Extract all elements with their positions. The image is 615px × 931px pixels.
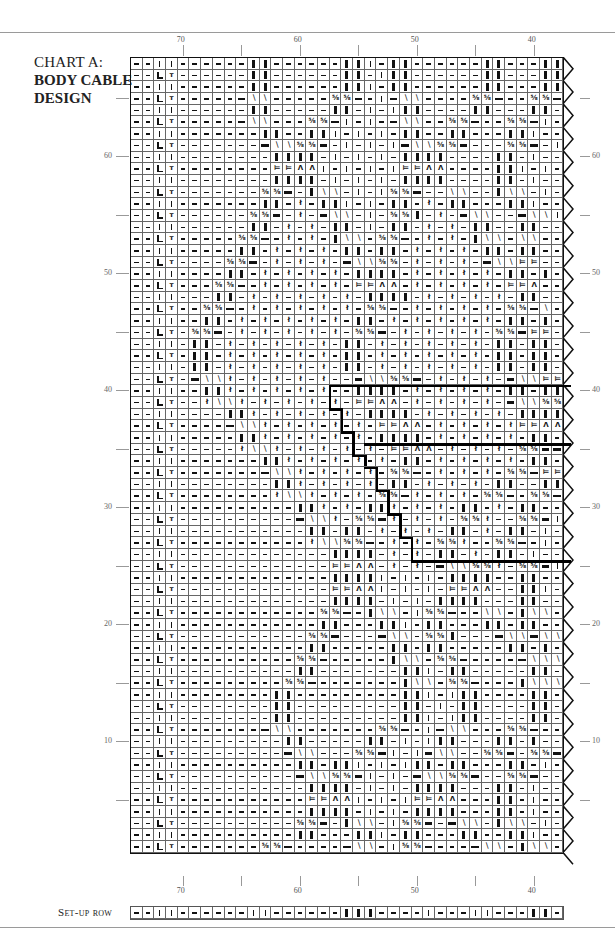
chart-row-cell-purl: [365, 490, 377, 502]
chart-row-cell-bknit: [306, 502, 318, 514]
chart-row-cell-purl: [423, 829, 435, 841]
chart-row-cell-purl: [505, 654, 517, 666]
chart-row-cell-bknit: [341, 526, 353, 538]
setup-row-cell-knit: [423, 907, 435, 919]
chart-row-cell-purl: [143, 245, 155, 257]
chart-row-cell-purl: [131, 233, 143, 245]
chart-row-cell-purl: [143, 584, 155, 596]
setup-row-cell-knit: [248, 907, 260, 919]
chart-row-cell-purl: [178, 140, 190, 152]
chart-row-cell-knit: [365, 58, 377, 70]
setup-row-cell-purl: [295, 907, 307, 919]
chart-row-cell-purl: [318, 701, 330, 713]
chart-row-cell-R: ⅝: [540, 490, 552, 502]
chart-row-cell-knit: [388, 140, 400, 152]
chart-row-cell-purl: [528, 642, 540, 654]
chart-row-cell-bknit: [341, 222, 353, 234]
chart-row-cell-purl: [225, 584, 237, 596]
row-label-right: 40: [592, 385, 600, 394]
chart-row-cell-bknit: [482, 619, 494, 631]
chart-row-cell-purl: [143, 222, 155, 234]
chart-row-cell-bknit: [447, 759, 459, 771]
chart-row-cell-purl: [540, 198, 552, 210]
chart-row-cell-R: ⅝: [435, 607, 447, 619]
chart-row-cell-tw: ł: [423, 350, 435, 362]
chart-row-cell-bknit: [517, 841, 529, 853]
chart-row-cell-purl: [353, 701, 365, 713]
setup-row-cell-knit: [154, 907, 166, 919]
chart-row-cell-purl: [143, 339, 155, 351]
chart-row-cell-R: ⅝: [400, 210, 412, 222]
chart-row-cell-knit: [166, 666, 178, 678]
chart-row-cell-bknit: [400, 58, 412, 70]
chart-row-cell-L: [154, 210, 166, 222]
chart-row-cell-purl: [493, 467, 505, 479]
chart-row-cell-X: ⧹: [552, 654, 564, 666]
chart-row-cell-purl: [225, 654, 237, 666]
chart-row-cell-knit: [166, 175, 178, 187]
chart-row-cell-purl: [400, 596, 412, 608]
chart-row-cell-knit: [166, 409, 178, 421]
chart-row-cell-bknit: [318, 619, 330, 631]
chart-row-cell-X: ⧹: [540, 841, 552, 853]
chart-row-cell-purl: [540, 794, 552, 806]
chart-row-cell-tw: ł: [400, 327, 412, 339]
chart-row-cell-purl: [189, 561, 201, 573]
chart-row-cell-tw: ł: [295, 467, 307, 479]
chart-row-cell-purl: [388, 759, 400, 771]
chart-row-cell-purl: [143, 736, 155, 748]
chart-row-cell-R: ⅝: [447, 140, 459, 152]
chart-row-cell-purl: [143, 537, 155, 549]
chart-row-cell-bdash: [552, 93, 564, 105]
chart-row-cell-purl: [295, 93, 307, 105]
chart-row-cell-purl: [189, 783, 201, 795]
chart-row-cell-purl: [423, 70, 435, 82]
chart-row-cell-purl: [225, 818, 237, 830]
chart-row-cell-tw: ł: [306, 537, 318, 549]
chart-row-cell-knit: [447, 713, 459, 725]
chart-row-cell-bknit: [260, 58, 272, 70]
chart-row-cell-X: ⧹: [505, 631, 517, 643]
chart-row-cell-bdash: [388, 303, 400, 315]
chart-row-cell-purl: [517, 175, 529, 187]
chart-row-cell-bknit: [318, 642, 330, 654]
chart-row-cell-purl: [435, 339, 447, 351]
chart-row-cell-purl: [143, 350, 155, 362]
chart-row-cell-tw: ł: [306, 315, 318, 327]
chart-row-cell-purl: [131, 631, 143, 643]
chart-row-cell-purl: [330, 70, 342, 82]
chart-row-cell-bknit: [260, 222, 272, 234]
chart-row-cell-bknit: [505, 736, 517, 748]
chart-row-cell-bob: ⊨: [330, 561, 342, 573]
chart-row-cell-purl: [306, 58, 318, 70]
chart-row-cell-purl: [201, 467, 213, 479]
chart-row-cell-purl: [365, 631, 377, 643]
chart-row-cell-purl: [189, 736, 201, 748]
chart-row-cell-knit: [154, 81, 166, 93]
chart-row-cell-bknit: [517, 619, 529, 631]
chart-row-cell-purl: [540, 280, 552, 292]
chart-row-cell-purl: [376, 58, 388, 70]
chart-row-cell-purl: [341, 152, 353, 164]
chart-row-cell-tw: ł: [318, 444, 330, 456]
chart-row-cell-purl: [493, 303, 505, 315]
chart-row-cell-purl: [447, 210, 459, 222]
chart-row-cell-purl: [225, 642, 237, 654]
chart-row-cell-purl: [283, 794, 295, 806]
chart-row-cell-purl: [400, 783, 412, 795]
chart-row-cell-purl: [213, 724, 225, 736]
chart-row-cell-purl: [353, 619, 365, 631]
chart-row-cell-X: ⧹: [528, 397, 540, 409]
chart-row-cell-tw: ł: [248, 350, 260, 362]
chart-row-cell-bdash: [388, 116, 400, 128]
chart-row-cell-knit: [154, 455, 166, 467]
chart-row-cell-purl: [447, 152, 459, 164]
chart-row-cell-bknit: [505, 152, 517, 164]
chart-row-cell-purl: [201, 409, 213, 421]
chart-row-cell-T: т: [166, 140, 178, 152]
chart-row-cell-purl: [283, 374, 295, 386]
chart-row-cell-purl: [458, 105, 470, 117]
chart-row-cell-purl: [400, 549, 412, 561]
chart-row-cell-purl: [517, 748, 529, 760]
chart-row-cell-knit: [540, 116, 552, 128]
